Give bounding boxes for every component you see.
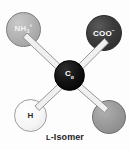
- atom-alpha-carbon-label: Cα: [65, 70, 74, 81]
- atom-alpha-carbon: Cα: [54, 60, 85, 91]
- l-isomer-figure: NH3+ COO− H Cα L-Isomer: [0, 0, 130, 150]
- molecule-diagram: NH3+ COO− H Cα: [0, 0, 130, 150]
